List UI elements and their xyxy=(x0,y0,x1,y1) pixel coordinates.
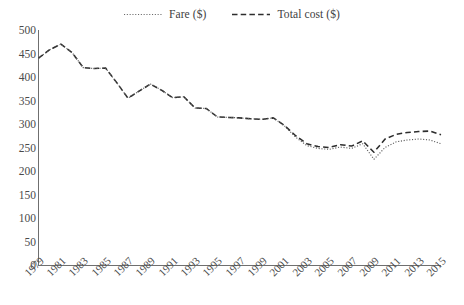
x-axis-tick-1987: 1987 xyxy=(111,254,135,278)
x-axis-tick-1981: 1981 xyxy=(44,254,68,278)
x-axis-tick-1979: 1979 xyxy=(22,254,46,278)
x-axis-tick-1999: 1999 xyxy=(245,254,269,278)
x-axis-tick-2001: 2001 xyxy=(267,254,291,278)
x-axis-tick-2003: 2003 xyxy=(290,254,314,278)
x-axis-tick-2015: 2015 xyxy=(424,254,448,278)
x-axis-tick-1983: 1983 xyxy=(66,254,90,278)
x-axis-tick-2005: 2005 xyxy=(312,254,336,278)
chart-container: Fare ($) Total cost ($) 5004504003503002… xyxy=(0,0,464,305)
x-axis-tick-1989: 1989 xyxy=(133,254,157,278)
plot-area: 500450400350300250200150100500 197919811… xyxy=(0,0,464,305)
x-axis-tick-2013: 2013 xyxy=(402,254,426,278)
x-axis-tick-1991: 1991 xyxy=(156,254,180,278)
x-axis-tick-1985: 1985 xyxy=(89,254,113,278)
x-axis-tick-1997: 1997 xyxy=(223,254,247,278)
x-axis-tick-1993: 1993 xyxy=(178,254,202,278)
x-axis-tick-2007: 2007 xyxy=(335,254,359,278)
x-axis-tick-labels: 1979198119831985198719891991199319951997… xyxy=(0,0,464,305)
x-axis-tick-2011: 2011 xyxy=(379,255,403,279)
x-axis-tick-2009: 2009 xyxy=(357,254,381,278)
x-axis-tick-1995: 1995 xyxy=(200,254,224,278)
